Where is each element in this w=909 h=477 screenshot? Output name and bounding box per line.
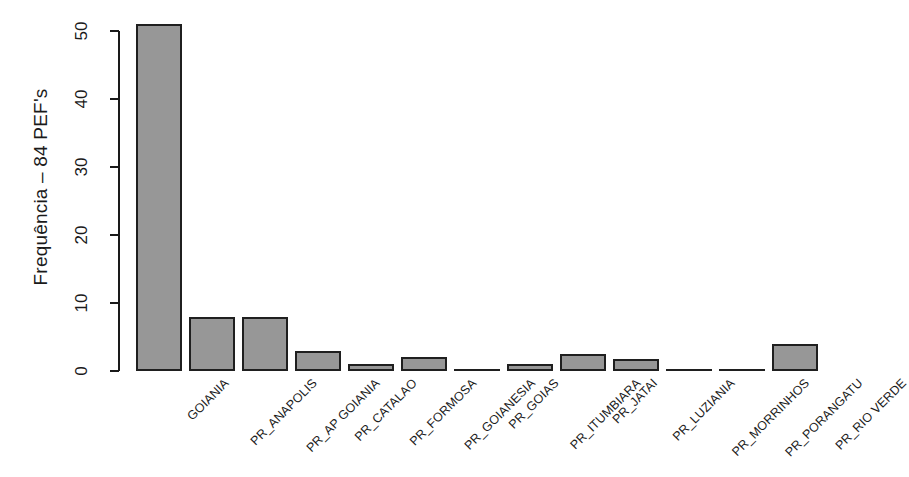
bar-slot	[772, 1, 818, 372]
bar[interactable]	[189, 317, 235, 371]
bar[interactable]	[454, 369, 500, 371]
bar[interactable]	[560, 354, 606, 371]
bar[interactable]	[348, 364, 394, 371]
bar[interactable]	[295, 351, 341, 371]
y-axis-tick-label: 0	[73, 351, 91, 391]
y-axis-tick-label: 40	[73, 79, 91, 119]
bar[interactable]	[242, 317, 288, 371]
bar[interactable]	[401, 357, 447, 371]
y-axis-title: Frequência – 84 PEF's	[24, 2, 58, 372]
bar-slot	[401, 1, 447, 372]
plot-area	[118, 0, 835, 372]
bar-slot	[189, 1, 235, 372]
x-axis-tick-label: PR_ANAPOLIS	[248, 376, 320, 448]
bar-slot	[348, 1, 394, 372]
bar[interactable]	[719, 369, 765, 371]
bar-slot	[560, 1, 606, 372]
x-axis-tick-label: PR_LUZIANIA	[670, 376, 738, 444]
y-axis-tick-label: 50	[73, 11, 91, 51]
bar[interactable]	[507, 364, 553, 371]
bar[interactable]	[136, 24, 182, 371]
bar-slot	[507, 1, 553, 372]
bar[interactable]	[666, 369, 712, 371]
x-axis-labels: GOIANIAPR_ANAPOLISPR_AP GOIANIAPR_CATALA…	[118, 372, 835, 477]
bar-slot	[295, 1, 341, 372]
y-axis-tick-label: 30	[73, 147, 91, 187]
y-axis-tick-label: 10	[73, 283, 91, 323]
bar-slot	[242, 1, 288, 372]
bar-slot	[666, 1, 712, 372]
bar[interactable]	[613, 359, 659, 371]
x-axis-tick-label: GOIANIA	[184, 376, 231, 423]
bar-slot	[719, 1, 765, 372]
bar-slot	[613, 1, 659, 372]
y-axis-tick-label: 20	[73, 215, 91, 255]
bar-slot	[136, 1, 182, 372]
bar[interactable]	[772, 344, 818, 371]
bar-slot	[454, 1, 500, 372]
